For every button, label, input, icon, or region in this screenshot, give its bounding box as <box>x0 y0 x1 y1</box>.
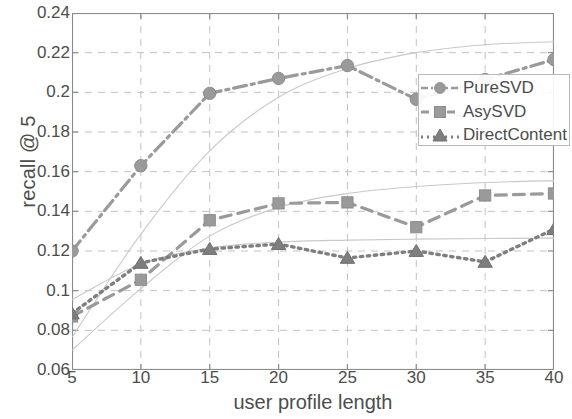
x-tick-label: 15 <box>190 368 230 388</box>
plot-area <box>72 13 554 370</box>
legend-item-asysvd: AsySVD <box>419 100 571 124</box>
x-tick-label: 40 <box>534 368 572 388</box>
plot-svg <box>72 13 554 370</box>
legend-label-asysvd: AsySVD <box>463 102 526 122</box>
legend-marker-triangle-icon <box>419 124 461 146</box>
x-tick-label: 30 <box>396 368 436 388</box>
legend-label-directcontent: DirectContent <box>463 125 567 145</box>
x-tick-label: 35 <box>465 368 505 388</box>
legend-marker-square-icon <box>419 101 461 123</box>
chart-legend: PureSVD AsySVD DirectContent <box>418 74 570 146</box>
x-tick-label: 25 <box>327 368 367 388</box>
legend-item-puresvd: PureSVD <box>419 76 571 100</box>
x-tick-label: 10 <box>121 368 161 388</box>
x-tick-label: 20 <box>259 368 299 388</box>
legend-label-puresvd: PureSVD <box>463 78 534 98</box>
recall-at-5-line-chart: recall @ 5 user profile length 0.060.080… <box>0 0 572 419</box>
legend-marker-circle-icon <box>419 77 461 99</box>
x-tick-label: 5 <box>52 368 92 388</box>
legend-item-directcontent: DirectContent <box>419 123 571 147</box>
